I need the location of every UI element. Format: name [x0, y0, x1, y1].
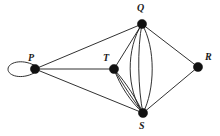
edge-q-s-2 [139, 24, 143, 113]
edge-p-s [35, 69, 143, 113]
vertex-p[interactable] [30, 64, 39, 73]
vertex-label-p: P [28, 53, 34, 63]
vertex-label-r: R [205, 52, 212, 62]
graph-figure: P Q T S R [0, 0, 220, 136]
edge-p-q [35, 24, 142, 69]
vertex-label-q: Q [137, 3, 144, 13]
edge-r-s [143, 67, 198, 113]
edge-q-s-3 [142, 24, 152, 113]
vertex-t[interactable] [109, 64, 118, 73]
graph-canvas [0, 0, 220, 136]
vertex-label-s: S [139, 121, 145, 131]
vertex-r[interactable] [193, 62, 202, 71]
vertex-s[interactable] [138, 108, 147, 117]
vertex-q[interactable] [137, 19, 146, 28]
vertex-label-t: T [103, 53, 109, 63]
